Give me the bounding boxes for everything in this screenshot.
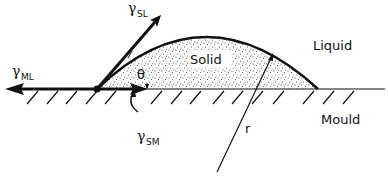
gamma-sl-label: γ SL xyxy=(128,0,148,19)
liquid-label: Liquid xyxy=(313,38,352,53)
svg-text:SL: SL xyxy=(137,9,148,19)
svg-text:SM: SM xyxy=(146,137,159,147)
gamma-ml-arrow xyxy=(5,83,97,95)
svg-text:γ: γ xyxy=(137,128,145,144)
svg-text:ML: ML xyxy=(21,72,34,82)
theta-label: θ xyxy=(137,67,145,82)
svg-text:γ: γ xyxy=(128,0,136,16)
contact-point xyxy=(94,86,101,93)
radius-label: r xyxy=(245,121,251,136)
gamma-ml-label: γ ML xyxy=(12,63,34,82)
mould-label: Mould xyxy=(321,112,360,127)
contact-angle-diagram: θ r Solid Liquid Mould γ SL γ ML γ SM xyxy=(0,0,388,179)
gamma-sm-label: γ SM xyxy=(137,128,159,147)
solid-label: Solid xyxy=(190,52,222,67)
mould-hatching xyxy=(27,91,354,104)
svg-text:γ: γ xyxy=(12,63,20,79)
